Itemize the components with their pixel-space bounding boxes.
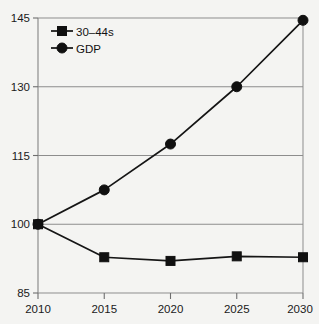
series-line bbox=[38, 224, 303, 261]
data-point-square-marker bbox=[299, 253, 308, 262]
legend-label-30-44s: 30–44s bbox=[76, 26, 114, 38]
data-point-square-marker bbox=[232, 252, 241, 261]
data-point-circle-marker bbox=[33, 219, 43, 229]
legend-label-gdp: GDP bbox=[76, 43, 101, 55]
x-tickmarks bbox=[38, 293, 303, 299]
data-point-square-marker bbox=[100, 253, 109, 262]
legend-item-30-44s: 30–44s bbox=[51, 26, 114, 38]
x-tick-label-2010: 2010 bbox=[25, 303, 51, 315]
legend-square-marker-icon bbox=[58, 27, 67, 36]
x-tick-label-2015: 2015 bbox=[91, 303, 117, 315]
x-tick-label-2020: 2020 bbox=[158, 303, 184, 315]
data-point-circle-marker bbox=[99, 185, 109, 195]
legend-item-gdp: GDP bbox=[51, 43, 101, 55]
y-tick-label-100: 100 bbox=[11, 218, 30, 230]
x-tick-labels: 2010 2015 2020 2025 2030 bbox=[25, 303, 313, 315]
y-tick-label-145: 145 bbox=[11, 12, 30, 24]
series-30-44s bbox=[34, 220, 308, 266]
data-point-circle-marker bbox=[232, 82, 242, 92]
data-series-layer bbox=[33, 15, 308, 265]
y-tick-labels: 145 130 115 100 85 bbox=[11, 12, 30, 299]
x-tick-label-2030: 2030 bbox=[287, 303, 313, 315]
y-tick-label-115: 115 bbox=[12, 150, 30, 162]
legend-circle-marker-icon bbox=[57, 43, 67, 53]
y-tickmarks bbox=[33, 18, 38, 293]
chart-container: 145 130 115 100 85 2010 2015 2020 2025 2… bbox=[0, 0, 319, 324]
line-chart: 145 130 115 100 85 2010 2015 2020 2025 2… bbox=[0, 0, 319, 324]
y-tick-label-85: 85 bbox=[17, 287, 30, 299]
data-point-circle-marker bbox=[166, 139, 176, 149]
x-tick-label-2025: 2025 bbox=[224, 303, 250, 315]
y-tick-label-130: 130 bbox=[11, 81, 30, 93]
data-point-circle-marker bbox=[298, 15, 308, 25]
data-point-square-marker bbox=[166, 256, 175, 265]
series-gdp bbox=[33, 15, 308, 229]
chart-legend: 30–44s GDP bbox=[51, 26, 114, 55]
